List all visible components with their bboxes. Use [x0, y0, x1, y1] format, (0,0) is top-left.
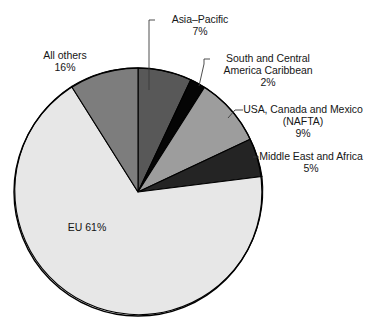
- label-nafta-name1: USA, Canada and Mexico: [239, 103, 367, 115]
- label-middle-east-africa: Middle East and Africa 5%: [255, 150, 367, 174]
- bottom-caption-artifact: [10, 329, 280, 336]
- label-all-others-name: All others: [27, 49, 103, 61]
- label-nafta-name2: (NAFTA): [239, 115, 367, 127]
- label-asia-pacific-value: 7%: [158, 25, 242, 37]
- label-south-central-america: South and Central America Caribbean 2%: [206, 52, 330, 89]
- label-south-central-america-name1: South and Central: [206, 52, 330, 64]
- label-middle-east-africa-name: Middle East and Africa: [255, 150, 367, 162]
- label-eu: EU 61%: [57, 221, 117, 233]
- label-south-central-america-name2: America Caribbean: [206, 64, 330, 76]
- label-nafta: USA, Canada and Mexico (NAFTA) 9%: [239, 103, 367, 140]
- pie-chart-figure: Asia–Pacific 7% South and Central Americ…: [0, 0, 367, 336]
- label-eu-name: EU: [68, 221, 83, 233]
- label-asia-pacific: Asia–Pacific 7%: [158, 13, 242, 37]
- label-middle-east-africa-value: 5%: [255, 162, 367, 174]
- label-south-central-america-value: 2%: [206, 76, 330, 88]
- label-asia-pacific-name: Asia–Pacific: [158, 13, 242, 25]
- label-all-others: All others 16%: [27, 49, 103, 73]
- label-all-others-value: 16%: [27, 61, 103, 73]
- label-nafta-value: 9%: [239, 127, 367, 139]
- leader-line-south-central-stem: [199, 59, 204, 86]
- label-eu-value: 61%: [85, 221, 106, 233]
